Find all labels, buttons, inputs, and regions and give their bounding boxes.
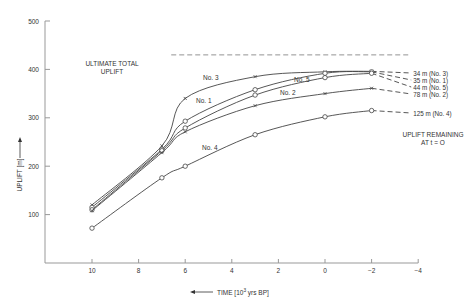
annotations: UPLIFT REMAININGAT t = O	[403, 131, 464, 146]
series-label: No. 1	[196, 97, 212, 104]
series-line	[92, 73, 372, 210]
y-tick-label: 200	[28, 163, 39, 170]
x-tick-label: 2	[277, 267, 281, 274]
extrapolation-line	[372, 73, 412, 87]
series-line	[92, 88, 372, 210]
uplift-remaining-value: 78 m (No. 2)	[413, 91, 448, 99]
circle-marker-icon	[160, 176, 164, 180]
uplift-remaining-label: UPLIFT REMAINING	[403, 131, 464, 138]
x-marker-icon	[184, 97, 187, 100]
circle-marker-icon	[253, 133, 257, 137]
circle-marker-icon	[183, 119, 187, 123]
x-tick-label: 0	[323, 267, 327, 274]
ultimate-uplift-label: ULTIMATE TOTAL	[85, 60, 139, 67]
x-tick-label: 8	[137, 267, 141, 274]
circle-marker-icon	[183, 126, 187, 130]
circle-marker-icon	[369, 108, 373, 112]
uplift-remaining-label: AT t = O	[421, 139, 445, 146]
y-tick-label: 400	[28, 66, 39, 73]
x-tick-label: 4	[230, 267, 234, 274]
circle-marker-icon	[253, 93, 257, 97]
axes: 1002003004005001086420−2−4TIME [103 yrs …	[16, 18, 422, 297]
series-no2: No. 278 m (No. 2)	[91, 87, 449, 212]
series-line	[92, 72, 372, 208]
series-label: No. 4	[202, 144, 218, 151]
x-axis-label: TIME [103 yrs BP]	[217, 288, 269, 297]
arrow-left-icon	[190, 290, 195, 294]
ultimate-uplift-label: UPLIFT	[101, 68, 123, 75]
uplift-chart: 1002003004005001086420−2−4TIME [103 yrs …	[0, 0, 473, 304]
y-tick-label: 100	[28, 211, 39, 218]
y-tick-label: 500	[28, 18, 39, 25]
circle-marker-icon	[183, 164, 187, 168]
circle-marker-icon	[369, 71, 373, 75]
circle-marker-icon	[323, 115, 327, 119]
circle-marker-icon	[323, 71, 327, 75]
extrapolation-line	[372, 88, 412, 94]
series-label: No. 5	[294, 76, 310, 83]
circle-marker-icon	[323, 75, 327, 79]
extrapolation-line	[372, 71, 412, 73]
curves: No. 334 m (No. 3)No. 135 m (No. 1)No. 54…	[90, 70, 452, 231]
series-label: No. 2	[280, 89, 296, 96]
series-label: No. 3	[203, 74, 219, 81]
y-axis-label: UPLIFT [m]	[16, 158, 24, 191]
circle-marker-icon	[253, 88, 257, 92]
arrow-up-icon	[18, 137, 22, 142]
x-tick-label: −4	[414, 267, 422, 274]
x-tick-label: 6	[183, 267, 187, 274]
series-no4: No. 4125 m (No. 4)	[90, 108, 452, 230]
circle-marker-icon	[90, 226, 94, 230]
series-line	[92, 71, 372, 205]
extrapolation-line	[372, 111, 412, 113]
uplift-remaining-value: 125 m (No. 4)	[413, 110, 452, 118]
y-tick-label: 300	[28, 114, 39, 121]
x-tick-label: −2	[368, 267, 376, 274]
x-tick-label: 10	[88, 267, 96, 274]
series-line	[92, 111, 372, 229]
